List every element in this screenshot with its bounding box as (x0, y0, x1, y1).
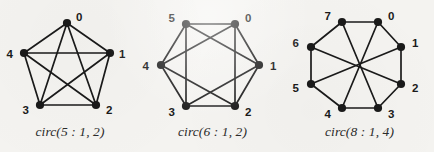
vertex-label: 3 (388, 108, 394, 120)
graph-vertex (20, 49, 28, 57)
graph-edge (24, 53, 40, 105)
figure-page: 01234 circ(5 : 1, 2) 012345 circ(6 : 1, … (0, 0, 434, 152)
graph-edge (40, 23, 67, 105)
graph-vertex (182, 20, 190, 28)
vertex-label: 4 (325, 108, 332, 120)
graph-panel-circ-5-1-2: 01234 circ(5 : 1, 2) (0, 0, 140, 152)
graph-edge (378, 22, 401, 47)
graph-edge (378, 84, 401, 108)
vertex-label: 0 (245, 12, 251, 24)
graph-vertex (157, 61, 165, 69)
vertex-label: 1 (119, 48, 126, 60)
caption-circ-8-1-4: circ(8 : 1, 4) (285, 124, 434, 140)
graph-drawing-circ-5-1-2: 01234 (0, 0, 140, 125)
graph-drawing-circ-6-1-2: 012345 (140, 0, 285, 125)
vertex-label: 6 (293, 37, 299, 49)
graph-vertex (231, 20, 239, 28)
vertex-label: 0 (76, 11, 82, 23)
graph-panel-circ-8-1-4: 01234567 circ(8 : 1, 4) (285, 0, 434, 152)
graph-vertex (231, 102, 239, 110)
graph-edge (67, 23, 96, 105)
vertex-label: 4 (143, 60, 150, 72)
graph-edge (67, 23, 110, 53)
graph-edge (24, 53, 96, 105)
graph-drawing-circ-8-1-4: 01234567 (285, 0, 434, 125)
graph-edge (311, 22, 342, 47)
graph-vertex (338, 18, 346, 26)
vertex-label: 4 (7, 48, 14, 60)
vertex-label: 1 (412, 37, 419, 49)
vertex-label: 2 (106, 104, 112, 116)
graph-vertex (63, 19, 71, 27)
edge-group (161, 24, 259, 106)
vertex-label: 1 (270, 60, 277, 72)
graph-vertex (106, 49, 114, 57)
vertex-group: 01234 (7, 11, 126, 116)
vertex-label: 2 (412, 82, 418, 94)
graph-vertex (374, 104, 382, 112)
graph-vertex (92, 101, 100, 109)
edge-group (311, 22, 401, 108)
caption-circ-6-1-2: circ(6 : 1, 2) (140, 124, 285, 140)
vertex-label: 0 (388, 10, 394, 22)
graph-vertex (374, 18, 382, 26)
graph-vertex (307, 80, 315, 88)
graph-panel-circ-6-1-2: 012345 circ(6 : 1, 2) (140, 0, 285, 152)
graph-vertex (397, 43, 405, 51)
vertex-group: 012345 (143, 12, 277, 118)
caption-text-circ-8-1-4: circ(8 : 1, 4) (325, 124, 394, 139)
graph-edge (311, 84, 342, 108)
vertex-label: 3 (169, 106, 175, 118)
vertex-label: 5 (293, 82, 300, 94)
graph-vertex (397, 80, 405, 88)
vertex-label: 7 (325, 10, 331, 22)
graph-edge (24, 23, 67, 53)
graph-vertex (307, 43, 315, 51)
edge-group (24, 23, 110, 105)
vertex-label: 3 (23, 104, 29, 116)
vertex-label: 5 (169, 12, 176, 24)
caption-text-circ-5-1-2: circ(5 : 1, 2) (35, 124, 104, 139)
graph-vertex (255, 61, 263, 69)
caption-circ-5-1-2: circ(5 : 1, 2) (0, 124, 140, 140)
graph-vertex (36, 101, 44, 109)
caption-text-circ-6-1-2: circ(6 : 1, 2) (178, 124, 247, 139)
graph-vertex (338, 104, 346, 112)
graph-edge (40, 53, 110, 105)
vertex-label: 2 (245, 106, 251, 118)
graph-vertex (182, 102, 190, 110)
